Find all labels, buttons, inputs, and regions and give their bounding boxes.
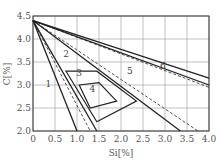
region-labels: 123456 (46, 49, 166, 94)
region-4-outline (79, 83, 116, 108)
region-label: 2 (63, 49, 69, 59)
region-label: 1 (46, 79, 52, 89)
boundary-line (33, 21, 97, 131)
region-label: 4 (90, 84, 96, 94)
x-tick-label: 2.5 (136, 134, 151, 144)
boundary-line (33, 21, 198, 131)
x-tick-label: 4.0 (202, 134, 217, 144)
carbon-silicon-diagram: 123456 00.51.01.52.02.53.03.54.02.02.53.… (0, 0, 221, 164)
x-axis-label: Si[%] (109, 148, 134, 158)
region-label: 3 (76, 68, 82, 78)
x-tick-label: 0 (30, 134, 36, 144)
y-tick-label: 3.5 (17, 57, 32, 67)
grid (33, 16, 209, 131)
x-tick-label: 0.5 (48, 134, 63, 144)
x-tick-label: 3.5 (180, 134, 195, 144)
x-tick-label: 1.0 (70, 134, 85, 144)
x-tick-label: 2.0 (114, 134, 129, 144)
y-axis-label: C[%] (2, 63, 12, 85)
y-tick-label: 4.0 (17, 34, 32, 44)
y-tick-label: 2.0 (17, 126, 32, 136)
x-tick-label: 1.5 (92, 134, 107, 144)
region-label: 5 (127, 66, 133, 76)
x-tick-label: 3.0 (158, 134, 173, 144)
region-label: 6 (160, 61, 166, 71)
y-tick-label: 4.5 (17, 11, 32, 21)
y-tick-label: 2.5 (17, 103, 32, 113)
y-tick-label: 3.0 (17, 80, 32, 90)
